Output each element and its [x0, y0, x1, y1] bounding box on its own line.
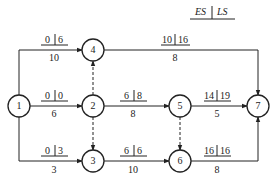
es-ls-brackets: [41, 34, 231, 156]
node-label-5: 5: [170, 101, 190, 111]
node-label-3: 3: [83, 156, 103, 166]
node-label-2: 2: [83, 101, 103, 111]
es-6-7: 16: [204, 146, 214, 156]
duration-1-2: 6: [52, 109, 57, 119]
node-label-6: 6: [170, 156, 190, 166]
es-1-4: 0: [45, 35, 50, 45]
node-label-4: 4: [83, 45, 103, 55]
legend-ls: LS: [217, 7, 228, 17]
legend-es: ES: [195, 7, 206, 17]
duration-1-3: 3: [52, 165, 57, 175]
node-label-1: 1: [9, 101, 29, 111]
ls-4-7: 16: [178, 35, 188, 45]
duration-2-5: 8: [131, 109, 136, 119]
node-label-7: 7: [248, 101, 268, 111]
network-diagram: ES LS 1 2 3 4 5 6 7 0 6 10 0 0 6 0 3 3 1…: [0, 0, 275, 186]
arrow-4-7: [104, 50, 258, 95]
es-5-7: 14: [204, 91, 214, 101]
ls-1-4: 6: [58, 35, 63, 45]
es-2-5: 6: [124, 91, 129, 101]
duration-5-7: 5: [215, 109, 220, 119]
ls-2-5: 8: [137, 91, 142, 101]
es-4-7: 10: [162, 35, 172, 45]
ls-6-7: 16: [220, 146, 230, 156]
arrow-1-3: [19, 117, 82, 161]
es-1-3: 0: [45, 146, 50, 156]
es-1-2: 0: [45, 91, 50, 101]
ls-1-2: 0: [58, 91, 63, 101]
ls-1-3: 3: [58, 146, 63, 156]
duration-1-4: 10: [49, 53, 59, 63]
duration-6-7: 8: [215, 165, 220, 175]
es-3-6: 6: [124, 146, 129, 156]
duration-4-7: 8: [173, 53, 178, 63]
ls-5-7: 19: [220, 91, 230, 101]
ls-3-6: 6: [137, 146, 142, 156]
duration-3-6: 10: [128, 165, 138, 175]
